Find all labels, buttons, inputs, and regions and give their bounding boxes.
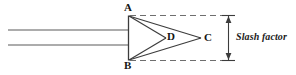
cone-line-B-to-D bbox=[129, 38, 166, 60]
cone-line-B-to-C bbox=[129, 38, 201, 60]
vertex-label-a: A bbox=[124, 2, 132, 13]
dashed-extension-lines bbox=[130, 16, 232, 61]
dimension-arrowhead-bottom bbox=[226, 53, 232, 60]
slash-factor-diagram: A B C D Slash factor bbox=[0, 0, 296, 75]
beam-lines bbox=[8, 30, 128, 45]
cone-line-A-to-C bbox=[129, 16, 201, 38]
vertex-label-c: C bbox=[204, 32, 212, 43]
cone-line-A-to-D bbox=[129, 16, 166, 38]
slash-factor-dimension-label: Slash factor bbox=[236, 31, 287, 42]
slash-factor-dimension bbox=[222, 16, 235, 61]
inner-cone-ADB bbox=[129, 16, 166, 60]
vertex-label-b: B bbox=[124, 60, 131, 71]
dimension-arrowhead-top bbox=[226, 16, 232, 23]
vertex-label-d: D bbox=[167, 31, 175, 42]
